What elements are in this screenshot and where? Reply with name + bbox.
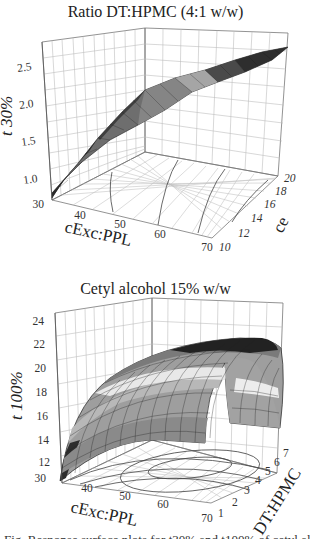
- svg-text:12: 12: [39, 456, 51, 468]
- svg-text:16: 16: [264, 198, 276, 210]
- figure-caption: Fig. Response surface plots for t30% and…: [4, 532, 311, 539]
- svg-text:3: 3: [244, 484, 250, 496]
- svg-text:22: 22: [34, 338, 46, 350]
- svg-text:5: 5: [265, 465, 271, 477]
- svg-text:30: 30: [35, 472, 47, 484]
- y-axis-label-top: ce: [269, 214, 293, 236]
- svg-text:20: 20: [35, 362, 47, 374]
- x-axis-label-bottom: cExc:PPL: [69, 497, 139, 530]
- svg-text:7: 7: [283, 447, 289, 459]
- svg-text:18: 18: [275, 185, 287, 197]
- svg-text:4: 4: [255, 474, 261, 486]
- svg-text:70: 70: [201, 512, 213, 524]
- svg-text:14: 14: [38, 434, 50, 446]
- surface-plot-top: Ratio DT:HPMC (4:1 w/w): [0, 0, 311, 262]
- svg-text:1.5: 1.5: [20, 134, 36, 148]
- svg-text:10: 10: [219, 241, 231, 253]
- svg-text:50: 50: [119, 490, 131, 502]
- svg-text:12: 12: [238, 227, 250, 239]
- z-tick-labels-bottom: 12 14 16 18 20 22 24: [33, 315, 51, 468]
- z-tick-labels-top: 1.0 1.5 2.0 2.5: [16, 60, 38, 186]
- surface-bottom-svg: 12 14 16 18 20 22 24 30 40 50 60 70 1 2 …: [0, 268, 311, 539]
- svg-text:70: 70: [201, 241, 213, 253]
- svg-text:18: 18: [36, 386, 48, 398]
- svg-text:24: 24: [33, 315, 45, 327]
- surface-top-svg: 1.0 1.5 2.0 2.5 30 40 50 60 70 10 12 14 …: [0, 0, 311, 262]
- svg-text:20: 20: [284, 172, 296, 184]
- svg-text:2.5: 2.5: [16, 60, 32, 74]
- z-axis-label-bottom: t 100%: [7, 371, 26, 420]
- svg-text:2.0: 2.0: [18, 97, 34, 111]
- svg-text:2: 2: [232, 496, 238, 508]
- svg-text:60: 60: [154, 228, 166, 240]
- svg-text:6: 6: [274, 456, 280, 468]
- surface-plot-bottom: Cetyl alcohol 15% w/w: [0, 268, 311, 539]
- svg-text:40: 40: [81, 482, 93, 494]
- svg-text:14: 14: [251, 212, 263, 224]
- y-tick-labels-top: 10 12 14 16 18 20: [219, 172, 296, 253]
- svg-text:16: 16: [37, 410, 49, 422]
- svg-text:1: 1: [218, 507, 224, 519]
- svg-text:30: 30: [33, 198, 45, 210]
- surface-mesh: [60, 338, 283, 481]
- svg-text:1.0: 1.0: [22, 172, 38, 186]
- z-axis-label-top: t 30%: [0, 96, 16, 136]
- svg-text:60: 60: [157, 498, 169, 510]
